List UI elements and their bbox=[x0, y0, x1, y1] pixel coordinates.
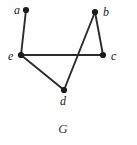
vertex-label-b: b bbox=[103, 5, 109, 19]
graph-figure: abcde G bbox=[0, 0, 137, 145]
vertex-dot-c bbox=[100, 52, 106, 58]
vertex-label-d: d bbox=[60, 94, 67, 108]
vertex-dot-d bbox=[61, 87, 67, 93]
figure-background bbox=[0, 0, 137, 145]
vertex-label-c: c bbox=[111, 49, 117, 63]
vertex-dot-e bbox=[18, 52, 24, 58]
graph-caption: G bbox=[58, 121, 68, 136]
vertex-dot-a bbox=[23, 7, 29, 13]
vertex-label-e: e bbox=[8, 49, 14, 63]
vertex-dot-b bbox=[92, 9, 98, 15]
vertex-label-a: a bbox=[14, 3, 20, 17]
